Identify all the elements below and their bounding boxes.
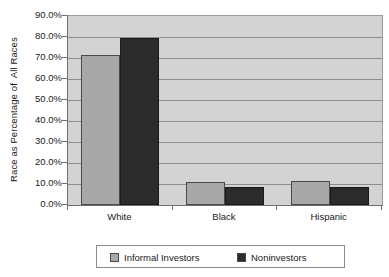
- bar-white-noninvestors: [120, 38, 159, 205]
- legend-entry-noninvestors: Noninvestors: [237, 250, 306, 264]
- legend: Informal InvestorsNoninvestors: [96, 245, 345, 268]
- x-axis-tick-mark: [381, 205, 382, 210]
- y-axis-tick-label: 50.0%: [14, 94, 62, 104]
- bar-black-noninvestors: [225, 187, 264, 205]
- x-axis-label-black: Black: [172, 211, 277, 223]
- y-axis-tick-label: 10.0%: [14, 178, 62, 188]
- legend-swatch-icon: [237, 253, 246, 262]
- bar-chart: Race as Percentage of All Races 90.0%80.…: [0, 0, 389, 277]
- x-axis-label-white: White: [67, 211, 172, 223]
- y-axis-tick-label: 40.0%: [14, 115, 62, 125]
- x-axis-label-hispanic: Hispanic: [276, 211, 381, 223]
- y-axis-tick-label: 90.0%: [14, 10, 62, 20]
- bars-layer: [68, 16, 382, 205]
- plot-area: [67, 15, 383, 206]
- y-axis-tick-label: 60.0%: [14, 73, 62, 83]
- bar-hispanic-noninvestors: [330, 187, 369, 205]
- legend-label: Informal Investors: [124, 252, 200, 263]
- x-axis-tick-mark: [67, 205, 68, 210]
- y-axis-tick-label: 20.0%: [14, 157, 62, 167]
- x-axis-labels: WhiteBlackHispanic: [67, 211, 381, 227]
- legend-entry-informal-investors: Informal Investors: [110, 250, 200, 264]
- y-axis-tick-labels: 90.0%80.0%70.0%60.0%50.0%40.0%30.0%20.0%…: [14, 0, 62, 277]
- y-axis-tick-label: 80.0%: [14, 31, 62, 41]
- y-axis-tick-label: 0.0%: [14, 199, 62, 209]
- legend-label: Noninvestors: [251, 252, 306, 263]
- y-axis-tick-label: 30.0%: [14, 136, 62, 146]
- y-axis-tick-label: 70.0%: [14, 52, 62, 62]
- x-axis-tick-mark: [172, 205, 173, 210]
- bar-black-informal-investors: [186, 182, 225, 205]
- bar-white-informal-investors: [81, 55, 120, 205]
- x-axis-tick-mark: [276, 205, 277, 210]
- bar-hispanic-informal-investors: [291, 181, 330, 205]
- legend-swatch-icon: [110, 253, 119, 262]
